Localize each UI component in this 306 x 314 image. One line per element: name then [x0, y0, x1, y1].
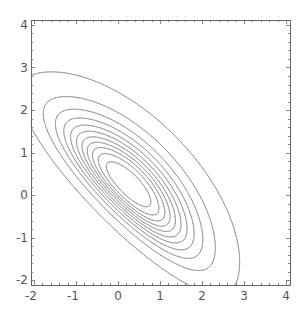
contour-line-1	[31, 72, 240, 285]
y-tick-label: -2	[16, 273, 28, 287]
axis-ticks	[31, 20, 290, 285]
x-tick-label: -2	[25, 289, 37, 303]
y-tick-label: 1	[20, 146, 28, 160]
contour-line-4	[64, 118, 194, 250]
y-tick-label: 0	[20, 188, 28, 202]
y-axis-tick-labels: -2-101234	[16, 18, 28, 287]
x-tick-label: 1	[156, 289, 164, 303]
y-tick-label: 4	[20, 18, 28, 32]
x-tick-label: 4	[282, 289, 290, 303]
contour-plot: -2-101234 -2-101234	[0, 0, 306, 314]
x-axis-tick-labels: -2-101234	[25, 289, 290, 303]
y-tick-label: 3	[20, 61, 28, 75]
contour-line-3	[55, 109, 202, 258]
contour-line-2	[43, 97, 215, 271]
x-tick-label: 2	[198, 289, 206, 303]
x-tick-label: 0	[114, 289, 122, 303]
x-tick-label: -1	[67, 289, 79, 303]
y-tick-label: 2	[20, 103, 28, 117]
y-tick-label: -1	[16, 231, 28, 245]
contour-lines	[31, 72, 240, 285]
contour-line-6	[77, 131, 181, 237]
x-tick-label: 3	[240, 289, 248, 303]
plot-frame	[32, 21, 291, 286]
contour-line-9	[92, 148, 165, 221]
